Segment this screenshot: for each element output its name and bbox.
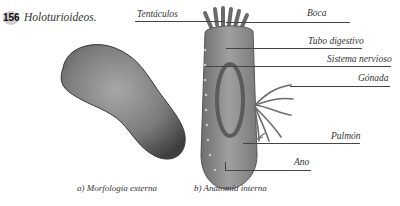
label-tentaculos: Tentáculos [137,9,178,19]
leader-line-gonada [290,86,390,87]
sea-cucumber-external-illustration [55,38,195,168]
leader-line-ano [225,170,311,171]
caption-morfologia-externa: a) Morfología externa [77,183,157,193]
label-boca: Boca [307,8,327,18]
caption-anatomia-interna: b) Anatomía interna [194,183,267,193]
label-pulmon: Pulmón [331,131,361,141]
label-tubo-digestivo: Tubo digestivo [308,36,364,46]
figure-number-badge: 156 [3,11,19,25]
label-gonada: Gónada [358,73,389,83]
leader-line-boca [226,22,350,23]
leader-line-tubo-digestivo [226,48,362,49]
label-ano: Ano [294,157,309,167]
sea-cucumber-anatomy-illustration [195,5,295,195]
figure-title: Holoturioideos. [24,11,97,23]
leader-line-pulmon [243,143,360,144]
leader-line-sistema-nervioso [205,66,391,67]
leader-line-tentaculos [135,21,225,22]
leader-line-ano-vertical [225,162,226,170]
label-sistema-nervioso: Sistema nervioso [327,54,392,64]
